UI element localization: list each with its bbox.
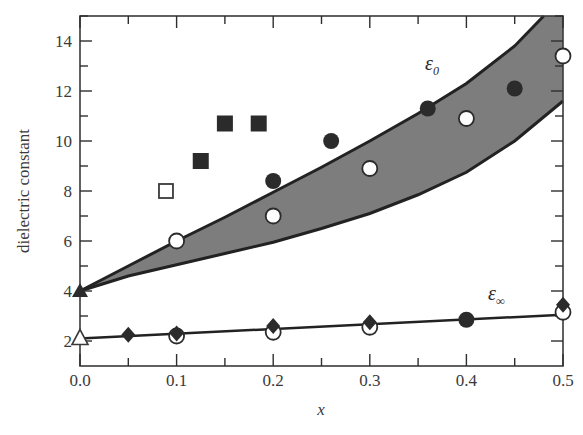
x-tick-label: 0.3: [359, 371, 380, 390]
open-circle-marker: [556, 49, 571, 64]
x-tick-label: 0.5: [552, 371, 573, 390]
epsilon-0-label: ε0: [425, 52, 439, 78]
filled-circle-marker: [265, 173, 281, 189]
open-circle-marker: [169, 234, 184, 249]
band-fill: [80, 16, 563, 291]
y-tick-label: 4: [64, 282, 73, 301]
y-tick-label: 2: [64, 332, 73, 351]
annotation-epsilon-inf: ε∞: [488, 282, 505, 308]
annotation-epsilon-0: ε0: [425, 52, 439, 78]
y-tick-label: 12: [55, 82, 72, 101]
epsilon-inf-label: ε∞: [488, 282, 505, 308]
x-tick-label: 0.2: [263, 371, 284, 390]
x-tick-label: 0.0: [69, 371, 90, 390]
y-axis-title: dielectric constant: [14, 129, 33, 253]
y-tick-label: 14: [55, 32, 73, 51]
filled-square-marker: [251, 116, 267, 132]
open-circle-marker: [362, 161, 377, 176]
epsilon-0-band: [80, 16, 563, 291]
x-tick-label: 0.1: [166, 371, 187, 390]
filled-circle-marker: [420, 101, 436, 117]
open-circle-marker: [266, 209, 281, 224]
filled-square-marker: [217, 116, 233, 132]
open-square-marker: [159, 184, 173, 198]
filled-circle-marker: [323, 133, 339, 149]
open-circle-marker: [459, 111, 474, 126]
x-axis-tick-labels: 0.00.10.20.30.40.5: [69, 371, 573, 390]
y-axis-tick-labels: 2468101214: [55, 32, 73, 351]
filled-diamond-marker: [121, 327, 135, 343]
filled-circle-marker: [507, 81, 523, 97]
chart: 0.00.10.20.30.40.5 2468101214 dielectric…: [0, 0, 583, 435]
y-tick-label: 8: [64, 182, 73, 201]
x-axis-title: x: [316, 400, 325, 419]
epsilon-inf-fit-line: [80, 315, 563, 339]
x-tick-label: 0.4: [456, 371, 478, 390]
epsilon-inf-line: [80, 315, 563, 339]
filled-square-marker: [193, 153, 209, 169]
y-tick-label: 6: [64, 232, 73, 251]
filled-circle-marker: [458, 312, 474, 328]
y-tick-label: 10: [55, 132, 72, 151]
